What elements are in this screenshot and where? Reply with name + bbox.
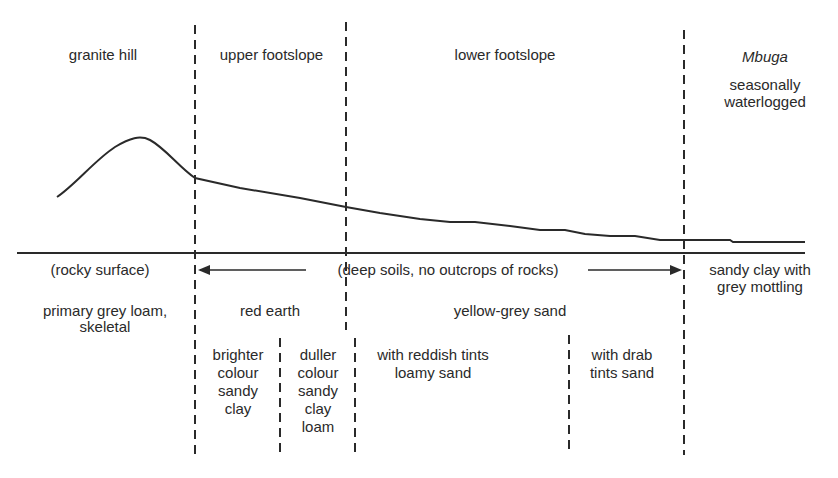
catena-diagram: granite hill upper footslope lower foots… — [0, 0, 838, 478]
soil-primary-line2: skeletal — [20, 318, 190, 336]
subsoil-drab: with drab tints sand — [572, 346, 672, 382]
subsoil-drab-l2: tints sand — [572, 364, 672, 382]
subsoil-reddish-l1: with reddish tints — [358, 346, 508, 364]
subsoil-brighter: brighter colour sandy clay — [198, 346, 278, 418]
subsoil-duller: duller colour sandy clay loam — [282, 346, 354, 436]
surface-rocky: (rocky surface) — [20, 261, 180, 279]
subsoil-drab-l1: with drab — [572, 346, 672, 364]
soil-red-earth: red earth — [200, 302, 340, 320]
subsoil-brighter-l4: clay — [198, 400, 278, 418]
zone-mbuga: Mbuga — [700, 48, 830, 66]
subsoil-brighter-l2: colour — [198, 364, 278, 382]
arrow-right-head — [670, 265, 682, 275]
mbuga-desc-line1: seasonally — [700, 76, 830, 94]
subsoil-duller-l1: duller — [282, 346, 354, 364]
subsoil-brighter-l1: brighter — [198, 346, 278, 364]
subsoil-duller-l3: sandy — [282, 382, 354, 400]
zone-upper-footslope: upper footslope — [200, 46, 343, 64]
zone-granite-hill: granite hill — [38, 46, 168, 64]
mbuga-soil-line1: sandy clay with — [690, 261, 830, 279]
mbuga-desc-line2: waterlogged — [700, 93, 830, 111]
subsoil-brighter-l3: sandy — [198, 382, 278, 400]
profile-lines — [0, 0, 838, 478]
zone-lower-footslope: lower footslope — [420, 46, 590, 64]
subsoil-reddish-l2: loamy sand — [358, 364, 508, 382]
subsoil-reddish: with reddish tints loamy sand — [358, 346, 508, 382]
subsoil-duller-l5: loam — [282, 418, 354, 436]
subsoil-duller-l4: clay — [282, 400, 354, 418]
surface-deep-soils: (deep soils, no outcrops of rocks) — [308, 261, 588, 279]
subsoil-duller-l2: colour — [282, 364, 354, 382]
mbuga-soil-line2: grey mottling — [690, 278, 830, 296]
soil-yellow-grey: yellow-grey sand — [420, 302, 600, 320]
arrow-left-head — [198, 265, 210, 275]
terrain-profile — [57, 138, 805, 242]
